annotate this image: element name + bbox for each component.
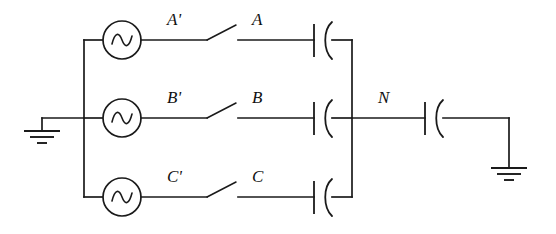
right-ground — [491, 118, 527, 180]
phase-row-c: C' C — [103, 167, 352, 216]
open-switch-icon-b[interactable] — [207, 103, 236, 118]
circuit-canvas: A' A B' B — [0, 0, 556, 234]
circuit-diagram: A' A B' B — [0, 0, 556, 234]
phase-a-source-label: A' — [166, 10, 181, 29]
ground-icon — [24, 131, 60, 143]
capacitor-icon-b — [314, 100, 332, 137]
capacitor-icon-n — [425, 100, 443, 137]
neutral-label: N — [377, 88, 391, 107]
phase-c-source-label: C' — [167, 167, 182, 186]
phase-row-b: B' B — [103, 88, 352, 137]
capacitor-icon-a — [314, 22, 332, 59]
phase-b-source-label: B' — [167, 88, 181, 107]
open-switch-icon-c[interactable] — [207, 182, 236, 197]
phase-c-line-label: C — [252, 167, 264, 186]
left-ground — [24, 118, 84, 143]
phase-row-a: A' A — [103, 10, 352, 59]
ac-source-icon-c[interactable] — [103, 178, 141, 216]
ac-source-icon-b[interactable] — [103, 99, 141, 137]
ground-icon — [491, 168, 527, 180]
left-source-bus — [84, 40, 103, 197]
phase-a-line-label: A — [251, 10, 263, 29]
capacitor-icon-c — [314, 179, 332, 216]
open-switch-icon-a[interactable] — [207, 25, 236, 40]
neutral-branch: N — [352, 88, 509, 137]
phase-b-line-label: B — [252, 88, 263, 107]
ac-source-icon-a[interactable] — [103, 21, 141, 59]
